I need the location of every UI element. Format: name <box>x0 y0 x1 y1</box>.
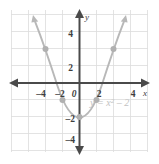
point-marker <box>43 46 49 52</box>
coordinate-plane-figure: –4 –2 0 2 4 4 2 –2 –4 x y y = x2 – 2 <box>0 0 159 164</box>
y-tick-label-4: 4 <box>68 29 73 39</box>
x-axis-arrow-left <box>9 79 18 88</box>
x-axis-arrow-right <box>141 79 150 88</box>
axis-names: x y <box>84 12 147 98</box>
y-axis-label: y <box>84 12 89 22</box>
y-tick-label-neg4: –4 <box>65 135 76 145</box>
x-tick-label-neg4: –4 <box>35 89 46 99</box>
point-marker <box>77 114 83 120</box>
equation-tail: – 2 <box>114 97 129 108</box>
x-tick-label-4: 4 <box>131 89 136 99</box>
y-axis-arrow-up <box>75 9 84 18</box>
x-axis-label: x <box>142 88 147 98</box>
tick-labels: –4 –2 0 2 4 4 2 –2 –4 <box>35 29 135 145</box>
curve-arrowhead-left <box>31 15 38 23</box>
curve-arrowhead-right <box>121 15 128 23</box>
equation-base: y = x <box>89 97 111 108</box>
y-tick-label-neg2: –2 <box>65 114 76 124</box>
x-tick-label-neg2: –2 <box>54 89 65 99</box>
equation-annotation-group: y = x2 – 2 <box>89 97 129 108</box>
equation-annotation: y = x2 – 2 <box>89 97 129 108</box>
point-marker <box>111 46 117 52</box>
y-tick-label-2: 2 <box>68 63 73 73</box>
origin-label: 0 <box>72 89 77 99</box>
graph-canvas: –4 –2 0 2 4 4 2 –2 –4 x y y = x2 – 2 <box>0 0 159 164</box>
